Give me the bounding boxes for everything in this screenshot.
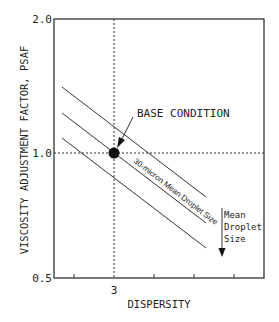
arrow-down-icon (219, 248, 226, 257)
series-line-30-micron (62, 113, 206, 223)
y-tick-2.0: 2.0 (32, 13, 52, 26)
x-tick-3: 3 (111, 284, 118, 297)
base-condition-label: BASE CONDITION (137, 107, 230, 120)
chart: BASE CONDITION 30-micron Mean Droplet Si… (0, 0, 279, 322)
y-axis-title: VISCOSITY ADJUSTMENT FACTOR, PSAF (18, 46, 30, 255)
y-tick-0.5: 0.5 (32, 272, 52, 285)
arrow-label-line3: Size (224, 234, 246, 244)
base-condition-point (109, 148, 120, 159)
arrow-label-line2: Droplet (224, 222, 262, 232)
arrow-label-line1: Mean (224, 210, 246, 220)
y-tick-1.0: 1.0 (32, 147, 52, 160)
base-condition-arrow (121, 117, 133, 141)
line-label: 30-micron Mean Droplet Size (132, 156, 220, 227)
series-line-upper (62, 87, 206, 197)
x-axis-title: DISPERSITY (127, 298, 191, 310)
arrowhead-icon (117, 137, 125, 148)
